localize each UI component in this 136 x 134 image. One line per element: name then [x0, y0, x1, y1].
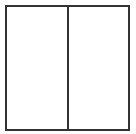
outer-frame [5, 5, 130, 131]
left-panel [7, 7, 67, 129]
right-panel [69, 7, 129, 129]
